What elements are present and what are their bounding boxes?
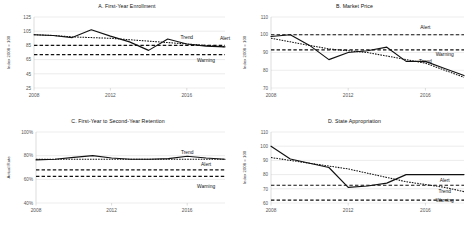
annotation-trend: Trend (419, 59, 432, 64)
y-axis-label: Index 2008 = 100 (6, 35, 11, 69)
panel-a-plot: 25456585105125200820122016Index 2008 = 1… (0, 0, 236, 115)
x-axis-tick: 2016 (181, 93, 192, 98)
x-axis-tick: 2012 (105, 93, 116, 98)
annotation-alert: Alert (440, 178, 451, 183)
y-axis-label: Index 2008 = 100 (242, 35, 247, 69)
chart-panel-d: D. State Appropriation 60708090100110200… (236, 115, 473, 230)
panel-d-plot: 60708090100110200820122016Index 2008 = 1… (236, 115, 473, 230)
x-axis-tick: 2008 (29, 93, 40, 98)
annotation-trend: Trend (180, 35, 193, 40)
annotation-trend: Trend (438, 189, 451, 194)
x-axis-tick: 2008 (31, 208, 42, 213)
y-axis-tick: 90 (263, 158, 269, 163)
panel-d-title: D. State Appropriation (236, 118, 473, 124)
y-axis-tick: 60% (24, 177, 33, 182)
series-actual-line (271, 146, 464, 187)
x-axis-tick: 2008 (266, 93, 277, 98)
y-axis-tick: 65 (26, 57, 32, 62)
x-axis-tick: 2016 (182, 208, 193, 213)
y-axis-tick: 100 (260, 144, 268, 149)
y-axis-tick: 90 (263, 50, 269, 55)
panel-b-plot: 708090100110200820122016Index 2008 = 100… (236, 0, 473, 115)
panel-a-title: A. First-Year Enrollment (0, 3, 236, 9)
annotation-alert: Alert (420, 25, 431, 30)
x-axis-tick: 2012 (343, 93, 354, 98)
chart-panel-a: A. First-Year Enrollment 254565851051252… (0, 0, 236, 115)
annotation-alert: Alert (201, 162, 212, 167)
panel-b-title: B. Market Price (236, 3, 473, 9)
y-axis-tick: 110 (261, 15, 269, 20)
y-axis-tick: 100 (260, 32, 268, 37)
y-axis-tick: 85 (26, 43, 32, 48)
annotation-alert: Alert (220, 36, 231, 41)
y-axis-tick: 70 (263, 86, 269, 91)
y-axis-tick: 45 (26, 72, 32, 77)
y-axis-tick: 60 (263, 201, 269, 206)
series-trend-line (271, 38, 464, 77)
annotation-warning: Warning (197, 58, 215, 63)
y-axis-tick: 80 (263, 68, 269, 73)
panel-c-plot: 40%60%80%100%200820122016Actual RateTren… (0, 115, 236, 230)
chart-panel-c: C. First-Year to Second-Year Retention 4… (0, 115, 236, 230)
x-axis-tick: 2012 (106, 208, 117, 213)
x-axis-tick: 2012 (343, 208, 354, 213)
y-axis-tick: 105 (23, 29, 31, 34)
x-axis-tick: 2016 (420, 93, 431, 98)
annotation-warning: Warning (436, 198, 454, 203)
y-axis-tick: 125 (23, 15, 31, 20)
annotation-warning: Warning (436, 52, 454, 57)
x-axis-tick: 2008 (266, 208, 277, 213)
x-axis-tick: 2016 (420, 208, 431, 213)
y-axis-tick: 110 (261, 130, 269, 135)
y-axis-tick: 80 (263, 172, 269, 177)
y-axis-label: Index 2008 = 100 (242, 150, 247, 184)
y-axis-label: Actual Rate (6, 156, 11, 179)
y-axis-tick: 40% (24, 201, 33, 206)
panel-c-title: C. First-Year to Second-Year Retention (0, 118, 236, 124)
y-axis-tick: 80% (24, 153, 33, 158)
y-axis-tick: 25 (26, 86, 32, 91)
annotation-warning: Warning (197, 184, 215, 189)
figure-panel-grid: A. First-Year Enrollment 254565851051252… (0, 0, 473, 230)
y-axis-tick: 70 (263, 187, 269, 192)
chart-panel-b: B. Market Price 708090100110200820122016… (236, 0, 473, 115)
annotation-trend: Trend (181, 150, 194, 155)
y-axis-tick: 100% (21, 130, 33, 135)
